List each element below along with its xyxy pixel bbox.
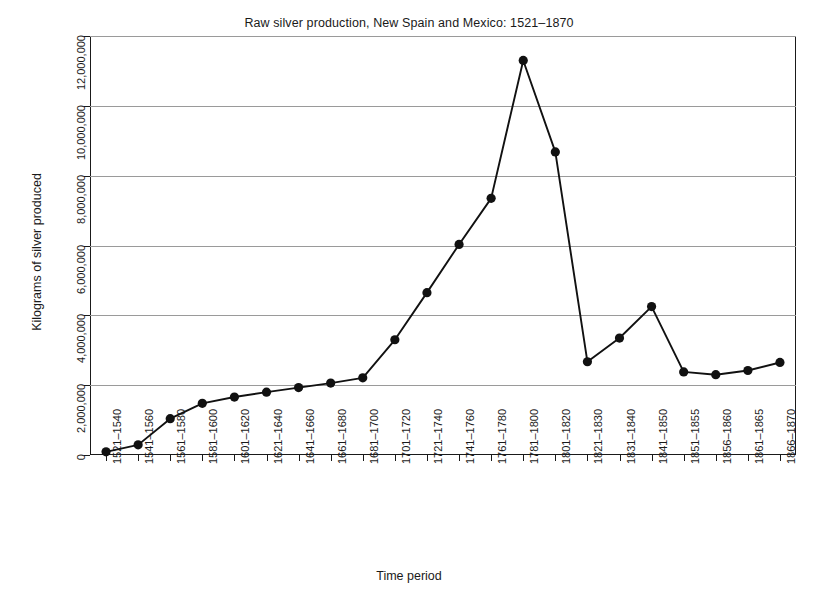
data-point: 1521–1540: 90,000: [101, 447, 110, 456]
x-axis-tick: [234, 455, 235, 461]
data-point: 1541–1560: 290,000: [134, 440, 143, 449]
data-point: 1661–1680: 2,060,000: [326, 378, 335, 387]
data-point: 1741–1760: 6,030,000: [454, 240, 463, 249]
plot-area: 02,000,0004,000,0006,000,0008,000,00010,…: [90, 36, 796, 455]
data-series: 1521–1540: 90,0001541–1560: 290,0001561–…: [90, 36, 796, 455]
data-point: 1641–1660: 1,930,000: [294, 383, 303, 392]
y-axis-tick-label: 2,000,000: [75, 384, 87, 433]
data-point: 1581–1600: 1,480,000: [198, 399, 207, 408]
x-axis-tick: [202, 455, 203, 461]
y-axis-tick-label: 8,000,000: [75, 175, 87, 224]
y-axis-title: Kilograms of silver produced: [30, 52, 44, 452]
x-axis-tick: [363, 455, 364, 461]
x-axis-tick: [491, 455, 492, 461]
x-axis-tick: [587, 455, 588, 461]
y-axis-tick-label: 0: [75, 454, 87, 460]
x-axis-tick: [684, 455, 685, 461]
data-point: 1761–1780: 7,350,000: [487, 194, 496, 203]
data-point: 1721–1740: 4,650,000: [422, 288, 431, 297]
x-axis-tick: [748, 455, 749, 461]
chart-figure: Raw silver production, New Spain and Mex…: [0, 0, 818, 599]
y-axis-tick-label: 6,000,000: [75, 245, 87, 294]
x-axis-tick: [716, 455, 717, 461]
x-axis-tick: [523, 455, 524, 461]
series-line: [106, 60, 780, 451]
x-axis-tick: [331, 455, 332, 461]
data-point: 1561–1580: 1,040,000: [166, 414, 175, 423]
y-axis-tick-label: 10,000,000: [75, 105, 87, 160]
data-point: 1841–1850: 4,250,000: [647, 302, 656, 311]
x-axis-tick: [170, 455, 171, 461]
x-axis-tick: [620, 455, 621, 461]
data-point: 1801–1820: 8,680,000: [551, 147, 560, 156]
x-axis-tick: [427, 455, 428, 461]
data-point: 1851–1855: 2,380,000: [679, 367, 688, 376]
x-axis-tick: [267, 455, 268, 461]
x-axis-tick: [652, 455, 653, 461]
y-axis-tick-label: 4,000,000: [75, 314, 87, 363]
x-axis-title: Time period: [0, 569, 818, 583]
data-point: 1821–1830: 2,670,000: [583, 357, 592, 366]
chart-title: Raw silver production, New Spain and Mex…: [0, 16, 818, 30]
data-point: 1781–1800: 11,300,000: [519, 56, 528, 65]
y-axis-tick-label: 12,000,000: [75, 35, 87, 90]
data-point: 1601–1620: 1,660,000: [230, 392, 239, 401]
data-point: 1621–1640: 1,800,000: [262, 388, 271, 397]
data-point: 1831–1840: 3,350,000: [615, 333, 624, 342]
x-axis-tick: [555, 455, 556, 461]
data-point: 1856–1860: 2,300,000: [711, 370, 720, 379]
data-point: 1681–1700: 2,210,000: [358, 373, 367, 382]
data-point: 1701–1720: 3,300,000: [390, 335, 399, 344]
x-axis-tick: [459, 455, 460, 461]
x-axis-tick: [395, 455, 396, 461]
x-axis-tick: [780, 455, 781, 461]
data-point: 1866–1870: 2,650,000: [775, 358, 784, 367]
x-axis-tick: [299, 455, 300, 461]
x-axis-tick: [138, 455, 139, 461]
data-point: 1861–1865: 2,420,000: [743, 366, 752, 375]
